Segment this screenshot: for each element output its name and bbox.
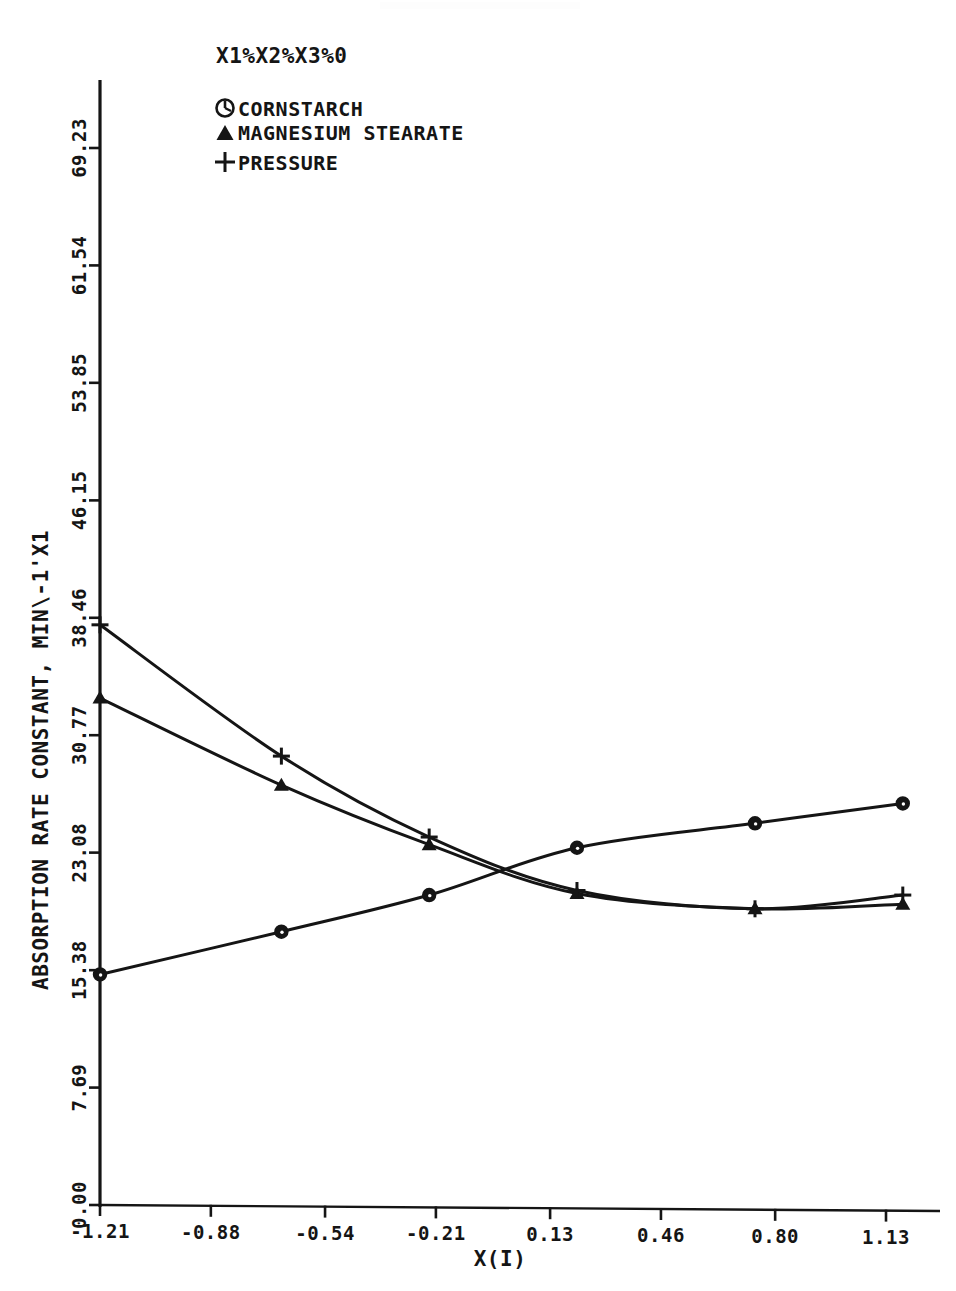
series-cornstarch xyxy=(94,797,909,980)
y-tick-label: 46.15 xyxy=(68,471,90,531)
y-tick-label: 7.69 xyxy=(68,1064,90,1112)
x-tick-label: 0.46 xyxy=(637,1224,685,1246)
series-line xyxy=(100,803,903,974)
legend-label-pressure: PRESSURE xyxy=(238,151,338,175)
legend-entry-magnesium-stearate[interactable]: MAGNESIUM STEARATE xyxy=(217,121,464,145)
x-axis-line xyxy=(100,1205,940,1211)
triangle-marker-icon xyxy=(217,125,234,140)
y-tick-label: 38.46 xyxy=(68,588,90,648)
chart-canvas: 0.007.6915.3823.0830.7738.4646.1553.8561… xyxy=(0,0,956,1291)
y-tick-label: 15.38 xyxy=(68,940,90,1000)
series-line xyxy=(100,625,903,909)
plus-marker-icon xyxy=(273,748,290,765)
circle-marker-icon xyxy=(897,797,909,809)
x-tick-label: -0.88 xyxy=(181,1221,241,1243)
legend: X1%X2%X3%0 CORNSTARCH MAGNESIUM STEARATE xyxy=(215,44,464,175)
x-tick-label: 0.80 xyxy=(751,1225,799,1247)
y-tick-label: 30.77 xyxy=(68,705,90,765)
series-line xyxy=(100,698,903,909)
x-tick-label: 0.13 xyxy=(526,1223,574,1245)
plus-marker-icon xyxy=(747,900,764,917)
y-tick-label: 53.85 xyxy=(68,353,90,413)
legend-header: X1%X2%X3%0 xyxy=(216,44,347,68)
y-axis-title: ABSORPTION RATE CONSTANT, MIN\-1'X1 xyxy=(29,530,53,990)
y-tick-label: 69.23 xyxy=(68,118,90,178)
legend-entry-cornstarch[interactable]: CORNSTARCH xyxy=(217,97,364,121)
circle-marker-icon xyxy=(94,968,106,980)
y-axis-ticks: 0.007.6915.3823.0830.7738.4646.1553.8561… xyxy=(68,118,101,1229)
x-tick-label: 1.13 xyxy=(862,1226,910,1248)
circle-marker-icon xyxy=(571,842,583,854)
circle-marker-icon xyxy=(749,817,761,829)
circle-marker-icon xyxy=(275,926,287,938)
y-tick-label: 61.54 xyxy=(68,236,90,296)
plus-marker-icon xyxy=(894,887,911,904)
x-tick-label: -0.54 xyxy=(295,1222,355,1244)
data-series-layer xyxy=(92,616,912,980)
circle-marker-icon xyxy=(217,100,234,117)
x-tick-label: -1.21 xyxy=(70,1220,130,1242)
y-tick-label: 23.08 xyxy=(68,823,90,883)
x-axis-title: X(I) xyxy=(474,1247,527,1271)
circle-marker-icon xyxy=(423,889,435,901)
legend-label-magnesium-stearate: MAGNESIUM STEARATE xyxy=(238,121,464,145)
triangle-marker-icon xyxy=(93,691,108,704)
chart-figure: 0.007.6915.3823.0830.7738.4646.1553.8561… xyxy=(0,0,956,1291)
axis-lines xyxy=(100,80,940,1211)
legend-label-cornstarch: CORNSTARCH xyxy=(238,97,363,121)
legend-entry-pressure[interactable]: PRESSURE xyxy=(215,151,338,175)
x-tick-label: -0.21 xyxy=(406,1222,466,1244)
plus-marker-icon xyxy=(215,152,235,172)
series-magnesium-stearate xyxy=(93,691,911,915)
